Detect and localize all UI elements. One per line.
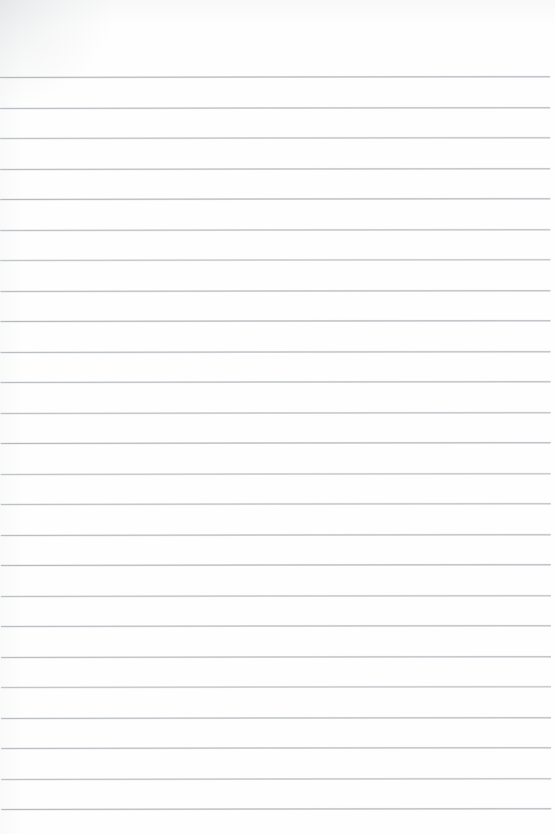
rule-line [0,168,550,170]
scanned-page [0,0,555,834]
rule-line [0,259,550,261]
rule-line [0,198,550,200]
rule-line [1,534,551,536]
rule-line [0,76,550,78]
rule-line [0,229,550,231]
rule-line [0,320,550,322]
rule-line [1,442,551,444]
rule-line [1,503,551,505]
rule-line [1,656,551,658]
rule-line [1,778,551,780]
ruled-lines-layer [0,0,555,834]
rule-line [1,625,551,627]
rule-line [1,564,551,566]
rule-line [1,595,551,597]
rule-line [0,107,550,109]
rule-line [0,290,550,292]
rule-line [1,808,551,810]
rule-line [0,137,550,139]
rule-line [1,381,551,383]
rule-line [1,747,551,749]
rule-line [1,473,551,475]
rule-line [1,412,551,414]
rule-line [1,686,551,688]
rule-line [1,351,551,353]
rule-line [1,717,551,719]
